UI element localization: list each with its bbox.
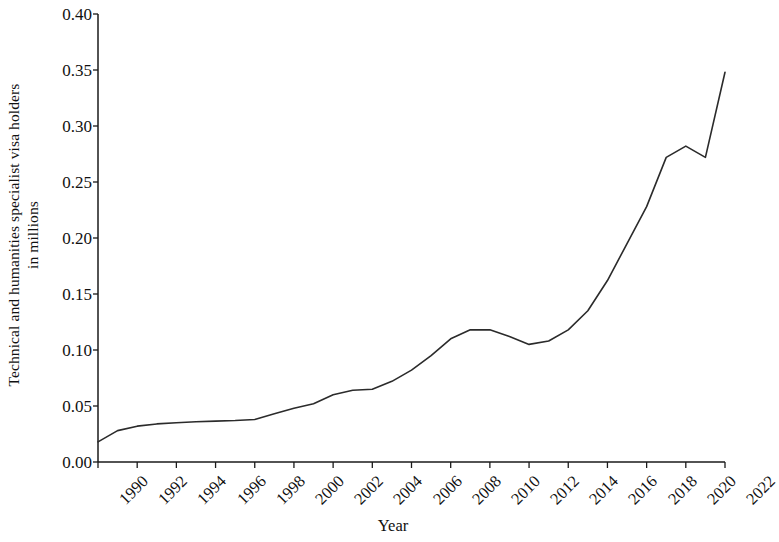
x-tick-label: 2012	[548, 473, 583, 508]
x-tick-label: 2006	[430, 473, 465, 508]
x-tick-label: 2002	[352, 473, 387, 508]
x-tick-label: 2022	[744, 473, 779, 508]
x-tick-label: 1996	[234, 473, 269, 508]
x-tick-label: 2010	[509, 473, 544, 508]
x-tick-label: 2000	[313, 473, 348, 508]
x-tick-label: 2014	[587, 473, 622, 508]
x-axis-title: Year	[0, 516, 731, 536]
x-tick-label: 1992	[156, 473, 191, 508]
x-tick-label: 1994	[195, 473, 230, 508]
x-tick-label: 2018	[665, 473, 700, 508]
x-tick-label: 1990	[117, 473, 152, 508]
x-tick-label: 2004	[391, 473, 426, 508]
x-tick-label: 1998	[273, 473, 308, 508]
x-tick-label: 2016	[626, 473, 661, 508]
x-tick-label: 2020	[704, 473, 739, 508]
x-tick-label: 2008	[469, 473, 504, 508]
